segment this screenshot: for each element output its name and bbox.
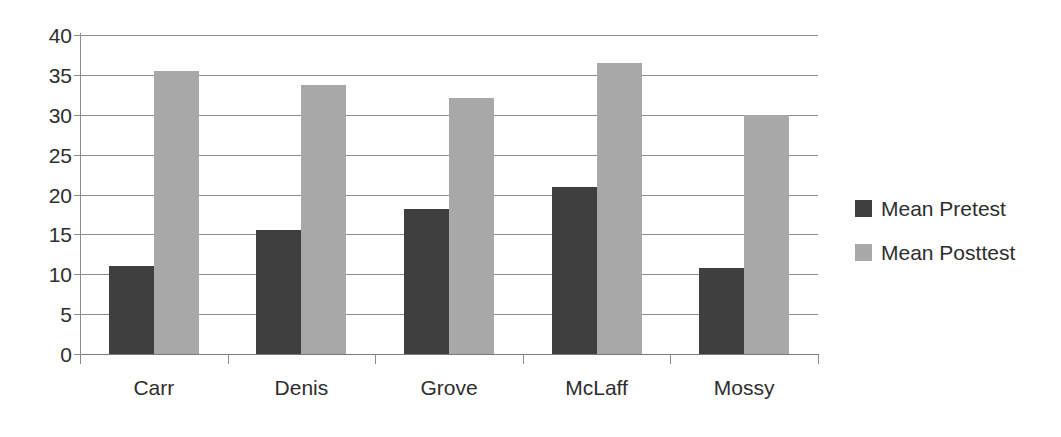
- x-tick-label-mclaff: McLaff: [523, 377, 671, 398]
- legend-swatch-pretest-icon: [855, 200, 872, 217]
- legend-item-pretest[interactable]: Mean Pretest: [855, 186, 1015, 230]
- legend-item-posttest[interactable]: Mean Posttest: [855, 230, 1015, 274]
- legend-label-pretest: Mean Pretest: [881, 198, 1006, 219]
- category-tick-4: [670, 354, 671, 364]
- x-tick-label-grove: Grove: [375, 377, 523, 398]
- x-tick-label-mossy: Mossy: [670, 377, 818, 398]
- category-tick-3: [523, 354, 524, 364]
- category-tick-1: [228, 354, 229, 364]
- chart-legend: Mean Pretest Mean Posttest: [855, 186, 1015, 274]
- legend-swatch-posttest-icon: [855, 244, 872, 261]
- category-tick-5: [818, 354, 819, 364]
- bar-chart-figure: 0510152025303540 CarrDenisGroveMcLaffMos…: [0, 0, 1061, 437]
- x-tick-label-carr: Carr: [80, 377, 228, 398]
- category-tick-0: [80, 354, 81, 364]
- category-tick-2: [375, 354, 376, 364]
- legend-label-posttest: Mean Posttest: [881, 242, 1015, 263]
- x-tick-label-denis: Denis: [228, 377, 376, 398]
